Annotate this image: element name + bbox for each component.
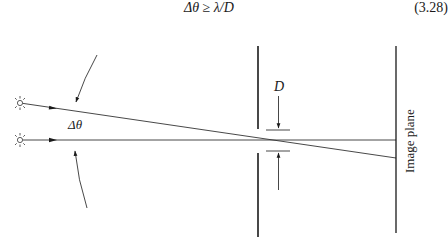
angle-arrow-bottom-icon: [75, 151, 87, 208]
ray-arrow-icon: [49, 106, 57, 111]
horizontal-ray: [23, 138, 396, 142]
aperture-label: D: [273, 79, 284, 94]
angle-arrow-top-icon: [76, 55, 97, 102]
angle-label: Δθ: [67, 117, 83, 132]
aperture-width-marker: [266, 96, 290, 190]
ray-arrow-icon: [49, 138, 57, 142]
diffraction-diagram: Δθ D Image plane: [0, 0, 448, 243]
image-plane-label: Image plane: [402, 109, 417, 173]
point-source-upper-icon: [15, 96, 25, 110]
